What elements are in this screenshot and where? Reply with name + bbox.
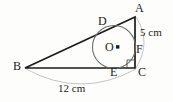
geometry-figure: A B C D E F O 5 cm 12 cm: [0, 0, 173, 102]
triangle-incircle-svg: [0, 0, 173, 102]
vertex-label-d: D: [98, 15, 107, 27]
vertex-label-b: B: [13, 60, 21, 72]
dimension-label-bc: 12 cm: [58, 83, 85, 94]
vertex-label-c: C: [138, 66, 146, 78]
vertex-label-e: E: [110, 66, 117, 78]
triangle-abc: [25, 17, 135, 68]
right-angle-mark-c: [127, 60, 135, 68]
dimension-label-ac: 5 cm: [140, 27, 162, 38]
center-label-o: O: [105, 41, 114, 53]
inscribed-circle: [93, 26, 136, 69]
vertex-label-a: A: [135, 2, 144, 14]
vertex-label-f: F: [136, 43, 143, 55]
center-dot: [116, 45, 119, 48]
